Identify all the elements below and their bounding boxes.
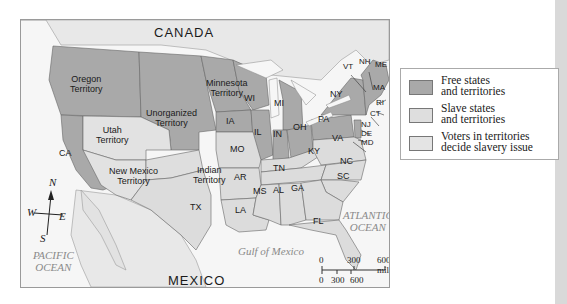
label-state-me: ME — [375, 60, 387, 69]
label-state-md: MD — [361, 138, 373, 147]
label-utah-territory: Utah Territory — [96, 125, 129, 145]
label-state-de: DE — [361, 129, 372, 138]
label-state-oh: OH — [293, 122, 307, 132]
label-state-tn: TN — [273, 163, 285, 173]
label-state-ga: GA — [291, 183, 304, 193]
scale-km-0: 0 — [319, 275, 324, 285]
map: CANADA MEXICO PACIFIC OCEAN ATLANTIC OCE… — [20, 19, 390, 288]
label-mexico: MEXICO — [168, 274, 225, 288]
label-state-ri: RI — [376, 98, 384, 107]
scale-miles-600: 600 miles — [377, 255, 390, 275]
legend-swatch-popular-sovereignty — [409, 136, 433, 151]
label-state-la: LA — [235, 205, 246, 215]
label-new-mexico-territory: New Mexico Territory — [109, 166, 158, 186]
label-state-ny: NY — [330, 89, 343, 99]
label-state-tx: TX — [190, 202, 202, 212]
label-state-ky: KY — [308, 146, 320, 156]
label-state-ca: CA — [59, 148, 72, 158]
label-state-in: IN — [273, 129, 282, 139]
label-state-sc: SC — [337, 171, 350, 181]
legend-swatch-slave — [409, 108, 433, 123]
compass-s-label: S — [40, 232, 46, 244]
label-state-ct: CT — [370, 109, 381, 118]
scale-miles-300: 300 — [347, 255, 361, 265]
scale-km-300: 300 — [331, 275, 345, 285]
label-state-mi: MI — [274, 98, 284, 108]
label-pacific-ocean: PACIFIC OCEAN — [33, 249, 74, 273]
label-state-wi: WI — [244, 93, 255, 103]
label-state-pa: PA — [318, 114, 329, 124]
legend-swatch-free — [409, 80, 433, 95]
legend-label-popular-sovereignty: Voters in territories decide slavery iss… — [441, 131, 533, 153]
map-shapes — [21, 20, 389, 287]
label-oregon-territory: Oregon Territory — [70, 74, 103, 94]
compass-n-label: N — [49, 176, 56, 188]
label-state-nj: NJ — [361, 120, 371, 129]
legend-label-slave: Slave states and territories — [441, 103, 505, 125]
label-state-vt: VT — [343, 62, 353, 71]
scale-miles-0: 0 — [319, 255, 324, 265]
label-state-nc: NC — [340, 156, 353, 166]
label-state-al: AL — [273, 185, 284, 195]
label-atlantic-ocean: ATLANTIC OCEAN — [343, 209, 390, 233]
label-minnesota-territory: Minnesota Territory — [206, 78, 248, 98]
label-state-mo: MO — [230, 144, 245, 154]
label-state-il: IL — [254, 127, 262, 137]
scale-km-600: 600 kilometers — [350, 275, 389, 288]
label-gulf-of-mexico: Gulf of Mexico — [238, 245, 304, 257]
compass-w-label: W — [27, 206, 36, 218]
label-state-fl: FL — [313, 216, 324, 226]
label-canada: CANADA — [154, 26, 214, 40]
label-indian-territory: Indian Territory — [193, 165, 226, 185]
label-state-va: VA — [332, 133, 343, 143]
label-state-ia: IA — [226, 116, 235, 126]
map-legend: Free states and territories Slave states… — [400, 68, 559, 160]
label-state-ms: MS — [253, 186, 267, 196]
label-unorganized-territory: Unorganized Territory — [146, 108, 197, 128]
label-state-ar: AR — [234, 172, 247, 182]
label-state-ma: MA — [373, 83, 385, 92]
compass-e-label: E — [59, 210, 66, 222]
label-state-nh: NH — [359, 57, 371, 66]
legend-label-free: Free states and territories — [441, 75, 505, 97]
